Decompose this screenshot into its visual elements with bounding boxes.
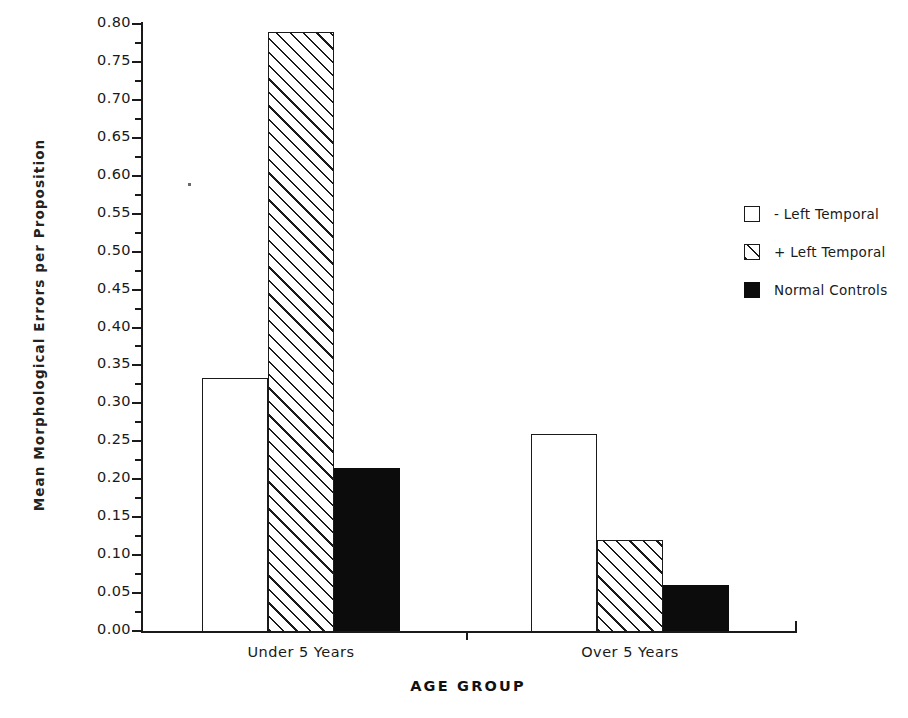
y-tick-label: 0.20 (97, 469, 131, 485)
bar (597, 540, 663, 631)
scan-speck (188, 183, 191, 186)
legend-item[interactable]: Normal Controls (744, 271, 904, 309)
bar-chart-figure: Mean Morphological Errors per Propositio… (0, 0, 908, 718)
legend-item[interactable]: + Left Temporal (744, 233, 904, 271)
y-tick-major (132, 592, 141, 594)
x-axis-group-label: Under 5 Years (201, 644, 401, 660)
y-tick-label: 0.80 (97, 14, 131, 30)
y-tick-label: 0.65 (97, 128, 131, 144)
legend-item[interactable]: - Left Temporal (744, 195, 904, 233)
y-tick-label: 0.10 (97, 545, 131, 561)
y-tick-minor (135, 270, 141, 272)
y-tick-major (132, 289, 141, 291)
x-axis-title: AGE GROUP (141, 678, 795, 694)
y-tick-minor (135, 232, 141, 234)
y-tick-minor (135, 194, 141, 196)
y-tick-label: 0.40 (97, 318, 131, 334)
y-tick-major (132, 440, 141, 442)
y-tick-major (132, 251, 141, 253)
y-tick-major (132, 327, 141, 329)
y-tick-minor (135, 611, 141, 613)
y-tick-major (132, 516, 141, 518)
legend-label: - Left Temporal (774, 206, 879, 222)
bar (268, 32, 334, 631)
y-tick-minor (135, 573, 141, 575)
y-axis-line (141, 22, 143, 633)
y-tick-label: 0.05 (97, 583, 131, 599)
y-tick-label: 0.55 (97, 204, 131, 220)
x-axis-group-separator-tick (466, 633, 468, 640)
y-tick-label: 0.75 (97, 52, 131, 68)
bar (202, 378, 268, 631)
y-tick-major (132, 213, 141, 215)
y-tick-minor (135, 308, 141, 310)
y-tick-label: 0.00 (97, 621, 131, 637)
legend-swatch-hatch-icon (744, 244, 760, 260)
y-tick-label: 0.45 (97, 280, 131, 296)
y-tick-minor (135, 421, 141, 423)
y-tick-major (132, 61, 141, 63)
y-tick-major (132, 364, 141, 366)
y-tick-major (132, 630, 141, 632)
y-tick-label: 0.25 (97, 431, 131, 447)
y-tick-minor (135, 118, 141, 120)
legend-swatch-open-icon (744, 206, 760, 222)
y-tick-minor (135, 535, 141, 537)
x-axis-line (141, 631, 797, 633)
legend-label: + Left Temporal (774, 244, 886, 260)
y-tick-minor (135, 156, 141, 158)
y-tick-major (132, 99, 141, 101)
y-tick-major (132, 402, 141, 404)
bar (334, 468, 400, 631)
y-tick-major (132, 23, 141, 25)
y-tick-label: 0.30 (97, 393, 131, 409)
legend: - Left Temporal+ Left TemporalNormal Con… (744, 195, 904, 309)
y-tick-label: 0.15 (97, 507, 131, 523)
y-tick-minor (135, 383, 141, 385)
bar (531, 434, 597, 631)
plot-area (141, 24, 795, 631)
y-tick-label: 0.35 (97, 355, 131, 371)
x-axis-end-tick (795, 621, 797, 633)
y-tick-major (132, 554, 141, 556)
y-tick-major (132, 137, 141, 139)
legend-label: Normal Controls (774, 282, 887, 298)
y-tick-minor (135, 42, 141, 44)
y-tick-label: 0.60 (97, 166, 131, 182)
bar (663, 585, 729, 631)
y-tick-label: 0.50 (97, 242, 131, 258)
y-tick-major (132, 478, 141, 480)
y-tick-major (132, 175, 141, 177)
y-tick-minor (135, 80, 141, 82)
legend-swatch-solid-icon (744, 282, 760, 298)
x-axis-group-label: Over 5 Years (530, 644, 730, 660)
y-tick-minor (135, 497, 141, 499)
y-tick-minor (135, 459, 141, 461)
y-tick-label: 0.70 (97, 90, 131, 106)
y-axis-tick-labels: 0.000.050.100.150.200.250.300.350.400.45… (45, 24, 131, 631)
y-tick-minor (135, 345, 141, 347)
